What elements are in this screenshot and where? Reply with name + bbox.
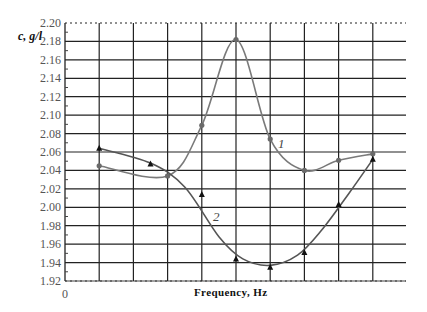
y-tick-label: 2.18 bbox=[40, 34, 61, 48]
y-axis-tick-labels: 2.202.182.162.142.122.102.082.062.042.02… bbox=[40, 16, 61, 288]
y-tick-label: 2.12 bbox=[40, 90, 61, 104]
curve-1-marker-circle bbox=[199, 123, 204, 128]
curve-1-marker-circle bbox=[268, 137, 273, 142]
y-axis-label: c, g/l bbox=[18, 29, 43, 43]
y-tick-label: 2.08 bbox=[40, 127, 61, 141]
curve-1-marker-circle bbox=[370, 151, 375, 156]
y-tick-label: 1.98 bbox=[40, 219, 61, 233]
y-tick-label: 2.00 bbox=[40, 200, 61, 214]
y-tick-label: 1.96 bbox=[40, 237, 61, 251]
x-axis-label: Frequency, Hz bbox=[194, 286, 267, 298]
curve-2-marker-triangle bbox=[199, 191, 205, 197]
curve-1-marker-circle bbox=[233, 37, 238, 42]
curve-2-marker-triangle bbox=[96, 145, 102, 151]
x-axis-origin-label: 0 bbox=[62, 287, 68, 301]
curve-1-label: 1 bbox=[278, 136, 285, 151]
y-tick-label: 1.92 bbox=[40, 274, 61, 288]
curve-2-marker-triangle bbox=[370, 156, 376, 162]
curve-2-label: 2 bbox=[213, 209, 220, 224]
y-tick-label: 2.06 bbox=[40, 145, 61, 159]
y-tick-label: 2.14 bbox=[40, 71, 61, 85]
y-tick-label: 2.10 bbox=[40, 108, 61, 122]
line-chart: 2.202.182.162.142.122.102.082.062.042.02… bbox=[0, 0, 427, 312]
y-tick-label: 2.16 bbox=[40, 53, 61, 67]
curve-1-marker-circle bbox=[336, 158, 341, 163]
y-tick-label: 2.20 bbox=[40, 16, 61, 30]
curve-1-marker-circle bbox=[97, 163, 102, 168]
curve-1-marker-circle bbox=[302, 168, 307, 173]
y-tick-label: 2.02 bbox=[40, 182, 61, 196]
y-tick-label: 1.94 bbox=[40, 256, 61, 270]
y-tick-label: 2.04 bbox=[40, 163, 61, 177]
